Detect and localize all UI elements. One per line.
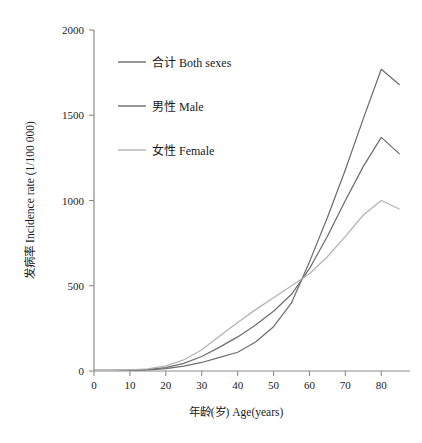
x-tick-label: 10: [124, 379, 136, 391]
legend-label: 女性 Female: [152, 143, 214, 158]
legend-label: 男性 Male: [152, 100, 204, 114]
y-tick-label: 1000: [62, 195, 85, 207]
chart-canvas: 0500100015002000 01020304050607080 年龄(岁)…: [0, 0, 422, 443]
y-tick-label: 500: [68, 280, 85, 292]
y-tick-label: 1500: [62, 109, 85, 121]
x-tick-label-group: 01020304050607080: [91, 379, 387, 391]
x-axis-title: 年龄(岁) Age(years): [189, 405, 284, 419]
series-line: [94, 69, 399, 370]
y-axis-title: 发病率 Incidence rate (1/100 000): [23, 121, 37, 279]
x-tick-label: 60: [304, 379, 316, 391]
x-tick-label: 40: [232, 379, 244, 391]
legend: 合计 Both sexes男性 Male女性 Female: [118, 55, 232, 158]
x-tick-label: 20: [160, 379, 172, 391]
incidence-rate-line-chart: 0500100015002000 01020304050607080 年龄(岁)…: [0, 0, 422, 443]
y-tick-label: 2000: [62, 24, 85, 36]
x-tick-label: 50: [268, 379, 280, 391]
y-tick-group: [89, 30, 94, 371]
series-line: [94, 201, 399, 371]
x-tick-label: 80: [376, 379, 388, 391]
series-line: [94, 137, 399, 370]
series-group: [94, 69, 399, 370]
y-axis: 0500100015002000: [62, 24, 94, 377]
x-tick-group: [94, 371, 381, 376]
x-tick-label: 0: [91, 379, 97, 391]
x-tick-label: 70: [340, 379, 352, 391]
legend-label: 合计 Both sexes: [152, 55, 232, 70]
y-tick-label: 0: [79, 365, 85, 377]
x-axis: 01020304050607080: [91, 371, 410, 391]
y-tick-label-group: 0500100015002000: [62, 24, 85, 377]
x-tick-label: 30: [196, 379, 208, 391]
